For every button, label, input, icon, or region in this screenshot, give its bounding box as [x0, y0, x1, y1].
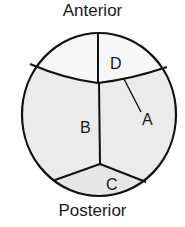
posterior-label: Posterior — [0, 201, 185, 221]
region-label-a: A — [142, 111, 153, 128]
ellipse-diagram: D A B C — [0, 0, 185, 227]
region-label-c: C — [106, 176, 118, 193]
region-label-b: B — [80, 119, 91, 136]
middle-vertical-line — [99, 83, 100, 164]
region-label-d: D — [110, 55, 122, 72]
